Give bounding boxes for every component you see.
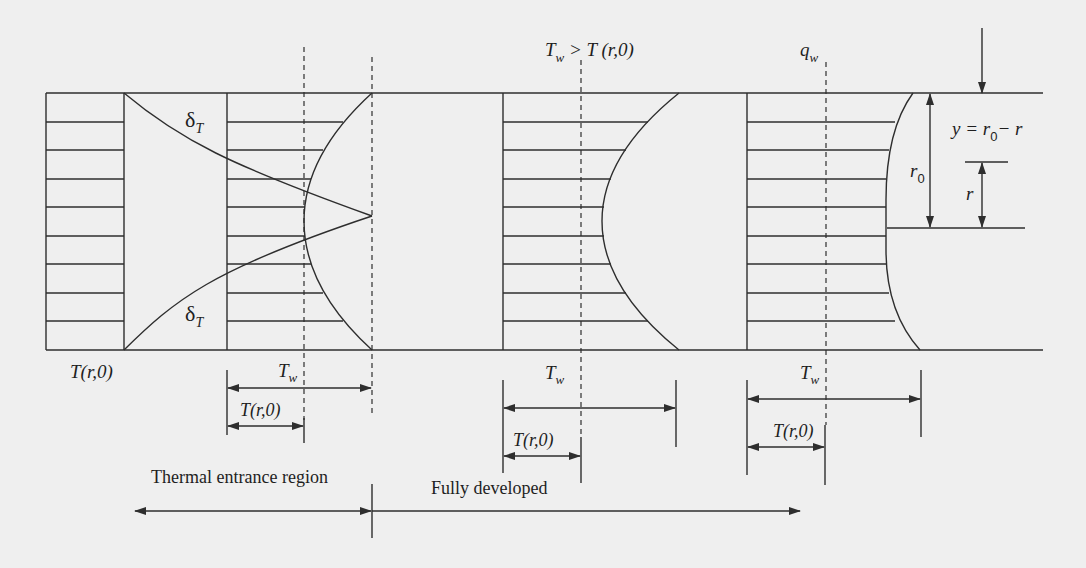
y-coordinate-label: y = r0− r <box>950 118 1023 144</box>
delta-t-upper-label: δT <box>185 107 204 136</box>
r-label: r <box>966 183 974 204</box>
delta-t-lower-label: δT <box>185 301 204 330</box>
inlet-temp-label-3: T(r,0) <box>773 421 814 442</box>
developed-profile-constant-heat-flux <box>747 93 920 350</box>
entrance-region-label: Thermal entrance region <box>151 467 328 487</box>
developing-profile <box>227 93 372 350</box>
wall-temp-label-2: Tw <box>545 362 565 387</box>
heat-flux-label: qw <box>800 39 819 65</box>
r0-label: r0 <box>910 160 925 186</box>
inlet-uniform-profile <box>46 93 124 350</box>
boundary-layer-upper <box>124 93 372 216</box>
developing-temperature-curve <box>304 93 372 350</box>
thermal-boundary-layer <box>124 93 372 350</box>
developed-temperature-curve-qw <box>886 93 920 350</box>
developed-region-label: Fully developed <box>431 478 547 498</box>
wall-temp-label-3: Tw <box>800 362 820 387</box>
developed-temperature-curve-Tw <box>602 93 679 350</box>
developed-profile-constant-wall-temp <box>503 93 679 350</box>
pipe-thermal-diagram: T(r,0) δT δT Tw > T (r,0) qw y = r0− r r… <box>0 0 1086 568</box>
inlet-temp-label-1: T(r,0) <box>240 400 281 421</box>
wall-temp-label-1: Tw <box>278 360 298 385</box>
inlet-temperature-label: T(r,0) <box>70 361 113 383</box>
wall-condition-label: Tw > T (r,0) <box>545 39 634 65</box>
inlet-temp-label-2: T(r,0) <box>513 430 554 451</box>
